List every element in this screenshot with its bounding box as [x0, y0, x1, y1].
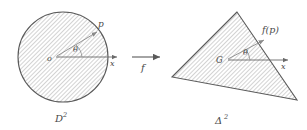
figure-container: o p θ x D 2 f G f(p) θ x	[0, 0, 307, 130]
disk-x-axis-label: x	[110, 59, 115, 68]
disk-point-p-label: p	[98, 19, 104, 29]
map-arrow-label: f	[140, 62, 147, 73]
disk-center-label: o	[47, 54, 52, 63]
disk-caption-exponent: 2	[62, 111, 67, 119]
triangle-centroid-label: G	[216, 55, 223, 65]
disk-angle-label: θ	[73, 45, 78, 54]
figure-svg: o p θ x D 2 f G f(p) θ x	[0, 0, 307, 130]
disk-caption: D	[54, 113, 63, 124]
triangle-caption: Δ	[214, 115, 222, 126]
triangle-point-fp-label: f(p)	[261, 24, 279, 35]
triangle-angle-label: θ	[243, 48, 248, 57]
triangle-x-axis-label: x	[281, 62, 286, 71]
map-arrow-group: f	[132, 57, 160, 73]
left-disk-group: o p θ x D 2	[18, 12, 117, 124]
right-triangle-group: G f(p) θ x Δ 2	[172, 12, 297, 126]
triangle-caption-exponent: 2	[223, 113, 228, 121]
